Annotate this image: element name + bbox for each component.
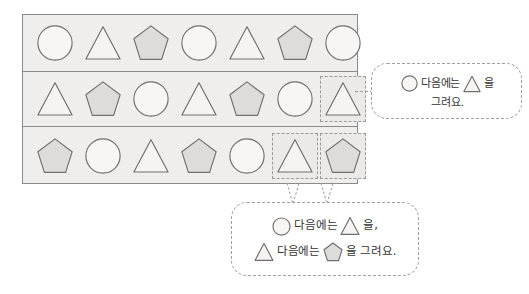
triangle-shape (180, 80, 218, 118)
pattern-row-2 (23, 71, 357, 127)
pattern-cell-circle (272, 76, 318, 122)
circle-shape (228, 137, 266, 175)
pattern-cell-circle (320, 20, 366, 66)
pattern-cell-triangle (80, 20, 126, 66)
pattern-cell-triangle (32, 76, 78, 122)
bubble-text: 다음에는 (421, 78, 460, 89)
pattern-cell-circle (176, 20, 222, 66)
circle-shape (36, 24, 74, 62)
triangle-shape (228, 24, 266, 62)
pentagon-shape (324, 137, 362, 175)
circle-shape (276, 80, 314, 118)
bubble-line: 그려요. (382, 97, 513, 108)
pentagon-shape (276, 24, 314, 62)
pattern-cell-triangle-answer-box[interactable] (272, 133, 318, 179)
pattern-cell-circle (80, 133, 126, 179)
pentagon-shape (36, 137, 74, 175)
connector-to-bottom-bubble-pentagon (316, 183, 338, 204)
bubble-line: 다음에는을 그려요. (242, 242, 408, 262)
pattern-row-1 (23, 15, 357, 71)
circle-shape (180, 24, 218, 62)
pattern-cell-triangle (176, 76, 222, 122)
connector-to-bottom-bubble-triangle (282, 183, 304, 204)
pattern-cell-pentagon (272, 20, 318, 66)
pentagon-shape (132, 24, 170, 62)
pattern-cell-pentagon (80, 76, 126, 122)
pentagon-shape (228, 80, 266, 118)
pattern-cell-pentagon-answer-box[interactable] (320, 133, 366, 179)
pattern-cell-triangle-answer-box[interactable] (320, 76, 366, 122)
pattern-cell-pentagon (224, 76, 270, 122)
triangle-shape (340, 216, 360, 236)
circle-shape (324, 24, 362, 62)
bubble-text: 다음에는 (277, 246, 320, 258)
bubble-text: 다음에는 (294, 220, 337, 232)
pattern-cell-circle (224, 133, 270, 179)
circle-shape (272, 217, 291, 236)
pentagon-shape (180, 137, 218, 175)
circle-shape (401, 75, 418, 92)
bubble-text: 을 (484, 78, 494, 89)
pentagon-shape (84, 80, 122, 118)
bubble-line: 다음에는을, (242, 216, 408, 236)
pattern-cell-triangle (224, 20, 270, 66)
triangle-shape (36, 80, 74, 118)
triangle-shape (463, 75, 481, 93)
pentagon-shape (323, 242, 343, 262)
bubble-text: 을 그려요. (346, 246, 396, 258)
pattern-board (22, 14, 358, 184)
triangle-shape (276, 137, 314, 175)
pattern-row-3 (23, 127, 357, 185)
circle-shape (84, 137, 122, 175)
bubble-text: 을, (363, 220, 377, 232)
bubble-text: 그려요. (431, 97, 464, 108)
circle-shape (132, 80, 170, 118)
bubble-line: 다음에는을 (382, 75, 513, 93)
pattern-cell-triangle (128, 133, 174, 179)
pattern-cell-pentagon (176, 133, 222, 179)
triangle-shape (324, 80, 362, 118)
triangle-shape (132, 137, 170, 175)
pattern-cell-pentagon (32, 133, 78, 179)
pattern-cell-circle (128, 76, 174, 122)
pattern-cell-circle (32, 20, 78, 66)
triangle-shape (254, 242, 274, 262)
speech-bubble-bottom: 다음에는을,다음에는을 그려요. (231, 202, 419, 276)
speech-bubble-right: 다음에는을그려요. (371, 63, 522, 119)
triangle-shape (84, 24, 122, 62)
pattern-cell-pentagon (128, 20, 174, 66)
